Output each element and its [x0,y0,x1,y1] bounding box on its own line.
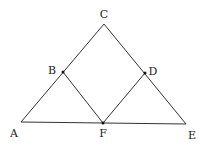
segment-df [103,73,145,123]
label-f: F [99,127,107,140]
point-d [144,72,147,75]
point-markers [62,71,147,125]
segment-bf [63,72,103,123]
point-f [102,122,105,125]
segments [21,24,186,124]
label-c: C [100,8,108,21]
geometry-diagram: A B C D E F [0,0,208,149]
point-b [62,71,65,74]
label-d: D [149,65,158,78]
label-b: B [48,64,56,77]
label-e: E [188,129,196,142]
label-a: A [9,127,19,140]
